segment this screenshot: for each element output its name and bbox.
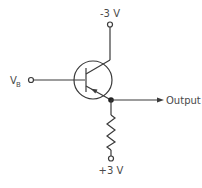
resistor-icon [107, 115, 115, 150]
input-terminal-icon [29, 78, 34, 83]
circuit-diagram: V B -3 V Output +3 V [0, 0, 202, 188]
output-label: Output [166, 95, 201, 106]
emitter-supply-terminal-icon [109, 156, 114, 161]
collector-supply-label: -3 V [100, 8, 120, 19]
emitter-arrow-icon [91, 89, 98, 94]
emitter-supply-label: +3 V [99, 165, 124, 176]
output-arrow-icon [157, 98, 164, 103]
input-label-subscript: B [16, 81, 21, 89]
collector-supply-terminal-icon [108, 22, 113, 27]
input-label: V B [10, 75, 21, 89]
